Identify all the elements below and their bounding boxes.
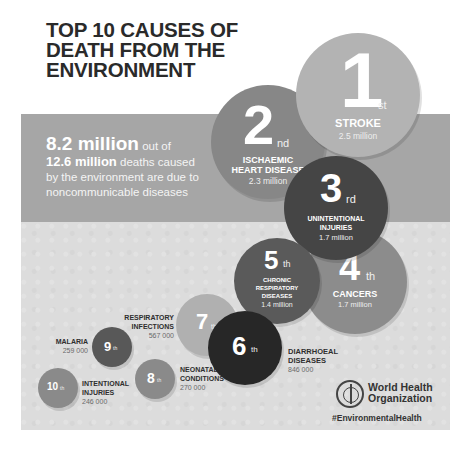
cause-label: CONDITIONS [180, 375, 224, 382]
cause-value: 2.5 million [296, 131, 420, 141]
cause-bubble-9-malaria: 9 th [92, 327, 132, 367]
cause-bubble-1-stroke: 1 st STROKE 2.5 million [296, 33, 420, 157]
title-line: TOP 10 CAUSES OF [46, 20, 266, 40]
cause-bubble-8-neonatal-conditions: 8 th [135, 359, 175, 399]
rank-number: 8 [147, 371, 155, 385]
cause-value: 1.7 million [284, 233, 388, 242]
rank-suffix: th [283, 259, 291, 269]
rank-suffix: th [251, 345, 258, 354]
cause-label: RESPIRATORY [124, 314, 174, 321]
stat-text: out of [142, 140, 171, 152]
stat-text: noncommunicable diseases [46, 185, 236, 200]
rank-suffix: st [378, 99, 387, 111]
cause-bubble-6-diarrhoeal-diseases: 6 th [208, 311, 282, 385]
cause-value: 1.4 million [234, 301, 320, 308]
cause-label: MALARIA [56, 338, 88, 345]
cause-bubble-10-intentional-injuries: 10 th [38, 368, 78, 408]
cause-value: 270 000 [180, 383, 224, 392]
rank-number: 3 [320, 168, 342, 208]
rank-number: 1 [340, 41, 383, 119]
cause-label: INFECTIONS [132, 323, 174, 330]
cause-value: 246 000 [82, 397, 129, 406]
rank-suffix: th [113, 345, 117, 351]
cause-value: 259 000 [50, 346, 88, 355]
org-name: World Health Organization [368, 382, 433, 404]
cause-label: DISEASES [288, 356, 326, 365]
rank-number: 6 [232, 333, 246, 359]
rank-number: 5 [264, 247, 278, 273]
rank-suffix: th [60, 385, 64, 391]
hashtag: #EnvironmentalHealth [332, 413, 422, 423]
cause-label: RESPIRATORY [234, 284, 320, 292]
rank-number: 10 [47, 382, 58, 392]
cause-label: INTENTIONAL [82, 380, 129, 387]
who-emblem-icon [336, 380, 364, 408]
page-title: TOP 10 CAUSES OF DEATH FROM THE ENVIRONM… [46, 20, 266, 80]
rank-number: 9 [104, 340, 111, 353]
cause-label: NEONATAL [180, 366, 218, 373]
stat-text: by the environment are due to [46, 170, 236, 185]
cause-label: DISEASES [234, 292, 320, 300]
rank-suffix: th [366, 270, 375, 282]
rank-number: 2 [243, 97, 274, 153]
rank-suffix: rd [346, 193, 356, 205]
rank-suffix: nd [277, 137, 289, 149]
cause-value: 846 000 [288, 365, 338, 374]
stat-big-value: 8.2 million [46, 133, 139, 154]
cause-label-intentional-injuries: INTENTIONAL INJURIES 246 000 [82, 379, 129, 406]
rank-suffix: th [157, 377, 161, 383]
title-line: DEATH FROM THE [46, 40, 266, 60]
cause-label: INJURIES [284, 223, 388, 233]
cause-label: STROKE [296, 118, 420, 128]
stat-total-value: 12.6 million [46, 154, 117, 169]
title-line: ENVIRONMENT [46, 60, 266, 80]
cause-label: CHRONIC [234, 276, 320, 284]
rank-number: 7 [196, 311, 208, 333]
stat-text: deaths caused [120, 156, 195, 168]
cause-label-diarrhoeal: DIARRHOEAL DISEASES 846 000 [288, 347, 338, 374]
cause-label-respiratory-infections: RESPIRATORY INFECTIONS 567 000 [122, 313, 174, 340]
cause-label: INJURIES [82, 389, 114, 396]
cause-label: DIARRHOEAL [288, 347, 338, 356]
summary-stat: 8.2 million out of 12.6 million deaths c… [46, 136, 236, 200]
org-name-line: Organization [368, 393, 433, 404]
cause-label-malaria: MALARIA 259 000 [50, 337, 88, 355]
